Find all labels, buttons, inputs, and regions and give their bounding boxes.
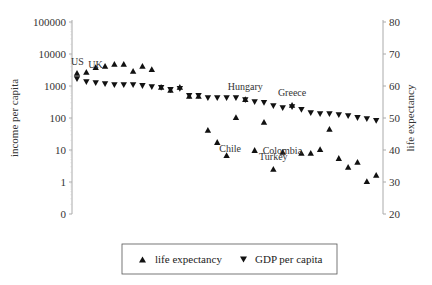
- point-gdp-per-capita: [270, 103, 276, 109]
- point-gdp-per-capita: [149, 84, 155, 90]
- series-gdp-per-capita: [74, 76, 380, 124]
- point-life-expectancy: [111, 61, 117, 67]
- annotation-us: US: [71, 56, 84, 67]
- left-tick-label: 100000: [33, 16, 67, 28]
- point-gdp-per-capita: [261, 100, 267, 106]
- y-axis-left-title: income per capita: [8, 79, 20, 157]
- point-life-expectancy: [308, 150, 314, 156]
- point-gdp-per-capita: [345, 113, 351, 119]
- point-life-expectancy: [373, 172, 379, 178]
- point-life-expectancy: [326, 126, 332, 132]
- annotation-hungary: Hungary: [228, 81, 263, 92]
- right-tick-label: 60: [389, 80, 401, 92]
- annotations: USUKHungaryChileColombiaTurkeyGreece: [71, 56, 307, 162]
- left-tick-label: 1: [61, 176, 67, 188]
- point-gdp-per-capita: [251, 99, 257, 105]
- point-life-expectancy: [261, 119, 267, 125]
- left-axis-ticks: 0110100100010000100000: [33, 16, 72, 220]
- right-tick-label: 70: [389, 48, 401, 60]
- point-gdp-per-capita: [93, 80, 99, 86]
- point-life-expectancy: [354, 159, 360, 165]
- point-gdp-per-capita: [308, 110, 314, 116]
- legend-label-gdp-per-capita: GDP per capita: [255, 253, 323, 265]
- point-life-expectancy: [130, 68, 136, 74]
- legend: life expectancy GDP per capita: [122, 244, 337, 274]
- left-tick-label: 1000: [44, 80, 67, 92]
- point-gdp-per-capita: [111, 82, 117, 88]
- left-tick-label: 0: [61, 208, 67, 220]
- axes: [72, 20, 383, 214]
- point-gdp-per-capita: [158, 85, 164, 91]
- point-life-expectancy: [139, 63, 145, 69]
- right-tick-label: 30: [389, 176, 401, 188]
- point-gdp-per-capita: [223, 95, 229, 101]
- right-axis-ticks: 20304050607080: [383, 16, 401, 220]
- right-tick-label: 20: [389, 208, 401, 220]
- point-life-expectancy: [205, 127, 211, 133]
- point-life-expectancy: [233, 114, 239, 120]
- point-life-expectancy: [317, 146, 323, 152]
- point-gdp-per-capita: [336, 112, 342, 118]
- point-gdp-per-capita: [214, 95, 220, 101]
- annotation-turkey: Turkey: [259, 151, 288, 162]
- point-gdp-per-capita: [354, 115, 360, 121]
- chart: 0110100100010000100000 20304050607080 in…: [0, 0, 432, 285]
- right-tick-label: 50: [389, 112, 401, 124]
- point-gdp-per-capita: [317, 111, 323, 117]
- point-gdp-per-capita: [242, 97, 248, 103]
- point-gdp-per-capita: [364, 116, 370, 122]
- point-gdp-per-capita: [102, 81, 108, 87]
- annotation-uk: UK: [88, 59, 103, 70]
- point-gdp-per-capita: [326, 111, 332, 117]
- y-axis-right-title: life expectancy: [404, 84, 416, 151]
- point-gdp-per-capita: [233, 95, 239, 101]
- legend-label-life-expectancy: life expectancy: [155, 253, 222, 265]
- point-gdp-per-capita: [205, 95, 211, 101]
- point-gdp-per-capita: [139, 83, 145, 89]
- point-life-expectancy: [336, 155, 342, 161]
- left-tick-label: 10: [55, 144, 67, 156]
- point-gdp-per-capita: [130, 82, 136, 88]
- point-life-expectancy: [121, 61, 127, 67]
- point-gdp-per-capita: [83, 79, 89, 85]
- point-life-expectancy: [364, 178, 370, 184]
- left-tick-label: 100: [50, 112, 67, 124]
- point-gdp-per-capita: [280, 105, 286, 111]
- point-gdp-per-capita: [373, 118, 379, 124]
- right-tick-label: 40: [389, 144, 401, 156]
- annotation-chile: Chile: [219, 143, 241, 154]
- point-life-expectancy: [149, 66, 155, 72]
- point-life-expectancy: [74, 70, 80, 76]
- point-gdp-per-capita: [74, 76, 80, 82]
- annotation-greece: Greece: [278, 87, 307, 98]
- series-life-expectancy: [74, 61, 380, 184]
- point-gdp-per-capita: [298, 107, 304, 113]
- left-tick-label: 10000: [39, 48, 67, 60]
- point-gdp-per-capita: [121, 82, 127, 88]
- point-life-expectancy: [251, 147, 257, 153]
- point-life-expectancy: [345, 164, 351, 170]
- point-life-expectancy: [270, 166, 276, 172]
- right-tick-label: 80: [389, 16, 401, 28]
